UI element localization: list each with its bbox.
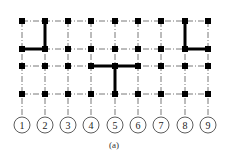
column-node xyxy=(135,46,141,52)
column-node xyxy=(65,91,71,97)
figure-caption: (a) xyxy=(0,140,228,150)
column-node xyxy=(19,46,25,52)
axis-label: 4 xyxy=(89,120,94,131)
column-node xyxy=(88,18,94,24)
column-node xyxy=(158,63,164,69)
column-node xyxy=(182,63,188,69)
column-node xyxy=(182,18,188,24)
column-node xyxy=(205,91,211,97)
column-node xyxy=(112,63,118,69)
column-node xyxy=(135,63,141,69)
axis-label: 7 xyxy=(159,120,164,131)
column-node xyxy=(88,63,94,69)
column-node xyxy=(158,46,164,52)
axis-label: 2 xyxy=(43,120,48,131)
column-node xyxy=(19,63,25,69)
axis-label: 9 xyxy=(206,120,211,131)
column-node xyxy=(88,91,94,97)
column-node xyxy=(88,46,94,52)
column-node xyxy=(65,63,71,69)
column-node xyxy=(65,18,71,24)
column-node xyxy=(182,91,188,97)
axis-label: 8 xyxy=(183,120,188,131)
column-node xyxy=(112,18,118,24)
column-node xyxy=(65,46,71,52)
column-node xyxy=(42,18,48,24)
column-node xyxy=(135,91,141,97)
column-node xyxy=(42,91,48,97)
column-node xyxy=(42,63,48,69)
column-node xyxy=(205,18,211,24)
column-node xyxy=(205,63,211,69)
axis-label: 5 xyxy=(113,120,118,131)
column-node xyxy=(135,18,141,24)
column-node xyxy=(158,18,164,24)
column-node xyxy=(182,46,188,52)
structural-grid: 123456789 xyxy=(0,0,228,162)
column-node xyxy=(205,46,211,52)
axis-label: 3 xyxy=(66,120,71,131)
column-node xyxy=(158,91,164,97)
column-node xyxy=(19,91,25,97)
column-node xyxy=(112,91,118,97)
grid-diagram: 123456789 (a) xyxy=(0,0,228,162)
column-node xyxy=(42,46,48,52)
axis-label: 1 xyxy=(20,120,25,131)
column-node xyxy=(112,46,118,52)
axis-label: 6 xyxy=(136,120,141,131)
column-node xyxy=(19,18,25,24)
